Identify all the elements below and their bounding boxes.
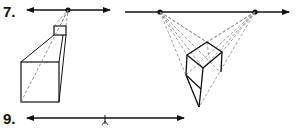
exercise-7-drawing	[21, 7, 110, 102]
front-rect	[21, 62, 59, 102]
perspective-diagram	[0, 0, 296, 130]
exercise-8-drawing	[125, 9, 289, 107]
exercise-9-drawing	[27, 115, 184, 125]
box-top-face	[187, 42, 222, 68]
